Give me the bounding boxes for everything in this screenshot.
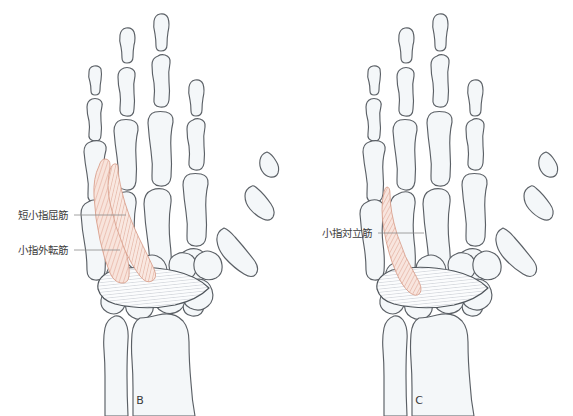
panel-b: 短小指屈筋 小指外転筋 B (18, 14, 279, 416)
panel-letter-c: C (415, 394, 423, 407)
hand-skeleton-illustration: 短小指屈筋 小指外転筋 B (0, 0, 573, 416)
panel-letter-b: B (136, 394, 144, 407)
panel-c: 小指対立筋 C (322, 14, 558, 416)
annotation-label-opponens-digiti-minimi: 小指対立筋 (322, 227, 372, 239)
annotation-label-abductor-digiti-minimi: 小指外転筋 (18, 244, 68, 256)
annotation-label-flexor-digiti-minimi-brevis: 短小指屈筋 (18, 209, 68, 221)
anatomy-figure: 短小指屈筋 小指外転筋 B (0, 0, 573, 416)
